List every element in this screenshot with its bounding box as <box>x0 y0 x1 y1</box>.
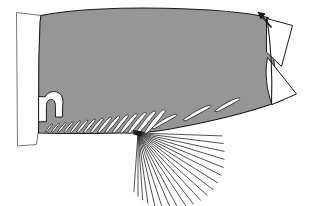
left-white-strip <box>17 13 42 147</box>
figure-canvas <box>0 0 313 206</box>
wing-diagram-svg <box>0 0 313 206</box>
